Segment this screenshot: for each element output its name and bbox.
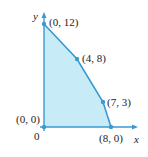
label-0-12: (0, 12) (49, 16, 79, 29)
vertex-4-8 (75, 57, 79, 61)
label-7-3: (7, 3) (107, 96, 131, 109)
label-4-8: (4, 8) (82, 52, 106, 65)
x-axis-arrow-icon (132, 125, 138, 130)
shaded-region (44, 24, 111, 127)
vertex-8-0 (109, 125, 113, 129)
origin-label: 0 (34, 130, 40, 142)
diagram-canvas: y x 0 (0, 12) (4, 8) (7, 3) (0, 0) (8, 0… (0, 0, 148, 157)
feasible-region-diagram: y x 0 (0, 12) (4, 8) (7, 3) (0, 0) (8, 0… (0, 0, 148, 157)
vertex-0-0 (42, 125, 46, 129)
vertex-0-12 (42, 22, 46, 26)
x-axis-label: x (133, 133, 139, 145)
label-0-0: (0, 0) (16, 113, 40, 126)
y-axis-arrow-icon (42, 12, 47, 18)
vertex-7-3 (101, 100, 105, 104)
label-8-0: (8, 0) (99, 132, 123, 145)
y-axis-label: y (32, 10, 38, 22)
